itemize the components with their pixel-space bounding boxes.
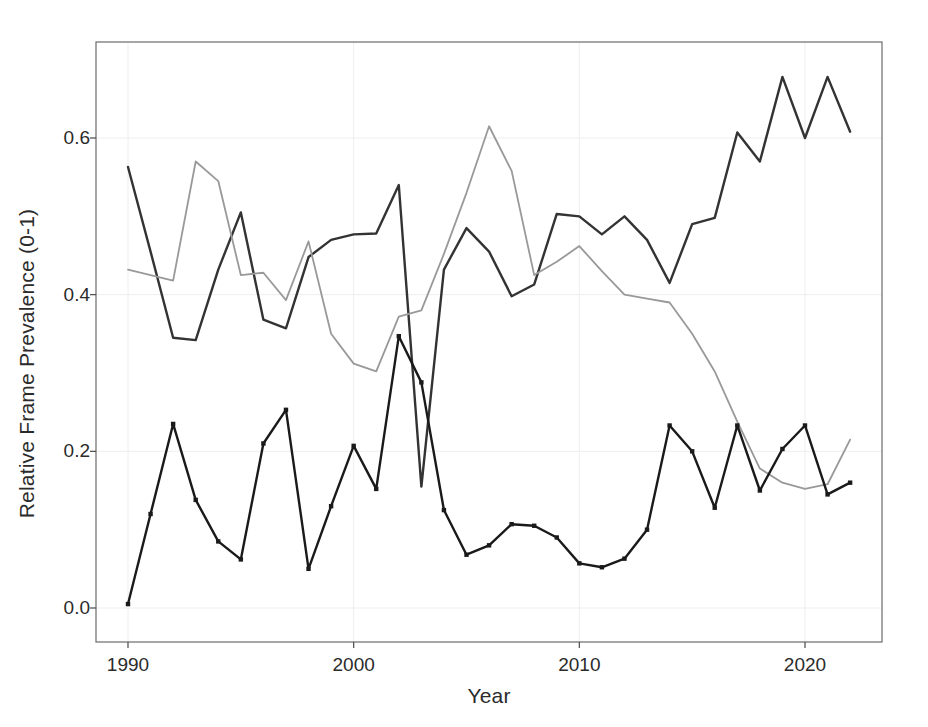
data-point-marker <box>509 522 513 526</box>
data-point-marker <box>667 423 671 427</box>
data-point-marker <box>848 480 852 484</box>
data-point-marker <box>690 449 694 453</box>
data-point-marker <box>261 441 265 445</box>
data-point-marker <box>306 567 310 571</box>
chart-figure: Relative Frame Prevalence (0-1) 0.00.20.… <box>0 0 928 727</box>
data-point-marker <box>803 423 807 427</box>
plot-background <box>96 42 882 642</box>
data-point-marker <box>735 423 739 427</box>
data-point-marker <box>329 504 333 508</box>
data-point-marker <box>780 447 784 451</box>
data-point-marker <box>419 380 423 384</box>
x-axis-title: Year <box>96 684 882 708</box>
plot-area <box>0 0 928 727</box>
data-point-marker <box>374 487 378 491</box>
data-point-marker <box>442 508 446 512</box>
data-point-marker <box>555 535 559 539</box>
data-point-marker <box>758 488 762 492</box>
data-point-marker <box>487 543 491 547</box>
data-point-marker <box>825 492 829 496</box>
data-point-marker <box>284 408 288 412</box>
data-point-marker <box>351 444 355 448</box>
data-point-marker <box>532 524 536 528</box>
data-point-marker <box>645 527 649 531</box>
data-point-marker <box>622 556 626 560</box>
data-point-marker <box>397 334 401 338</box>
data-point-marker <box>600 565 604 569</box>
data-point-marker <box>713 506 717 510</box>
data-point-marker <box>216 539 220 543</box>
data-point-marker <box>171 422 175 426</box>
data-point-marker <box>239 557 243 561</box>
data-point-marker <box>464 553 468 557</box>
data-point-marker <box>194 498 198 502</box>
data-point-marker <box>577 561 581 565</box>
data-point-marker <box>148 512 152 516</box>
data-point-marker <box>126 602 130 606</box>
